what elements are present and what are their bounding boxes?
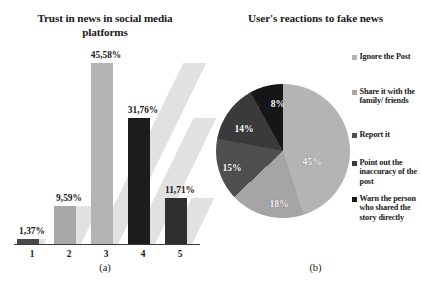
- legend-item-label: Warn the person who shared the story dir…: [360, 194, 421, 222]
- panel-b-caption: (b): [210, 262, 421, 273]
- legend-item-3[interactable]: Point out the inaccuracy of the post: [352, 158, 421, 186]
- panel-b-title: User's reactions to fake news: [210, 12, 421, 26]
- pie-slice-label-45: 45%: [302, 156, 321, 167]
- legend-swatch-icon: [352, 90, 357, 95]
- legend-item-label: Report it: [360, 130, 390, 139]
- x-axis-tick-label-1: 1: [14, 249, 50, 259]
- bar-group-3: 45,58%: [88, 47, 124, 244]
- bar-rect-5: [165, 198, 187, 244]
- legend-item-4[interactable]: Warn the person who shared the story dir…: [352, 194, 421, 222]
- bar-chart-plot-area: 1,37%19,59%245,58%331,76%411,71%5: [14, 48, 200, 245]
- bar-rect-2: [54, 206, 76, 244]
- pie-slice-label-18: 18%: [269, 198, 288, 209]
- pie-slice-label-14: 14%: [234, 123, 253, 134]
- bar-value-label-3: 45,58%: [79, 50, 133, 60]
- panel-b-pie-chart: User's reactions to fake news 45%18%15%1…: [210, 0, 421, 293]
- panel-a-title: Trust in news in social media platforms: [0, 12, 210, 39]
- legend-item-label: Share it with the family/ friends: [360, 87, 421, 106]
- legend-item-0[interactable]: Ignore the Post: [352, 52, 421, 61]
- pie-slice-label-8: 8%: [271, 98, 285, 109]
- panel-a-bar-chart: Trust in news in social media platforms …: [0, 0, 210, 293]
- pie-chart-legend: Ignore the PostShare it with the family/…: [352, 52, 421, 252]
- bar-value-label-1: 1,37%: [5, 226, 59, 236]
- legend-swatch-icon: [352, 197, 357, 202]
- x-axis-tick-label-2: 2: [51, 249, 87, 259]
- figure-container: Trust in news in social media platforms …: [0, 0, 421, 293]
- legend-swatch-icon: [352, 161, 357, 166]
- bar-value-label-4: 31,76%: [116, 105, 170, 115]
- bar-group-2: 9,59%: [51, 47, 87, 244]
- legend-item-1[interactable]: Share it with the family/ friends: [352, 87, 421, 106]
- panel-a-caption: (a): [0, 262, 210, 273]
- bar-value-label-5: 11,71%: [153, 185, 207, 195]
- bar-chart-x-axis: [14, 244, 200, 245]
- bar-rect-4: [128, 118, 150, 244]
- x-axis-tick-label-3: 3: [88, 249, 124, 259]
- legend-swatch-icon: [352, 55, 357, 60]
- x-axis-tick-label-4: 4: [125, 249, 161, 259]
- x-axis-tick-label-5: 5: [162, 249, 198, 259]
- legend-item-2[interactable]: Report it: [352, 130, 421, 139]
- pie-slice-label-15: 15%: [222, 162, 241, 173]
- legend-swatch-icon: [352, 133, 357, 138]
- bar-rect-3: [91, 63, 113, 244]
- legend-item-label: Ignore the Post: [360, 52, 411, 61]
- bar-group-1: 1,37%: [14, 47, 50, 244]
- bar-rect-1: [17, 239, 39, 244]
- bar-value-label-2: 9,59%: [42, 193, 96, 203]
- pie-chart-plot-area: 45%18%15%14%8%: [216, 84, 350, 218]
- legend-item-label: Point out the inaccuracy of the post: [360, 158, 421, 186]
